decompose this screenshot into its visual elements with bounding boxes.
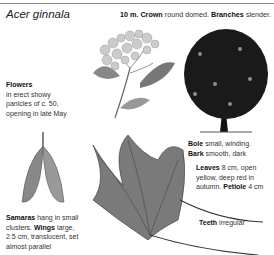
samaras-description: Samaras hang in small clusters. Wings la… [6, 213, 78, 251]
samaras-text: hang in small [37, 214, 78, 221]
petiole-text: 4 cm [248, 183, 263, 190]
samaras-text: clusters. [6, 224, 32, 231]
tree-summary: 10 m. Crown round domed. Branches slende… [120, 10, 271, 19]
flowers-line: opening in late May [6, 110, 67, 117]
flower-panicle-illustration [85, 28, 180, 123]
samara-illustration [18, 132, 68, 207]
petiole-label: Petiole [223, 183, 246, 190]
leaves-text: 8 cm, open [222, 164, 257, 171]
height-label: 10 m. [120, 10, 138, 19]
flowers-line: in erect showy [6, 91, 51, 98]
tree-silhouette-illustration [180, 24, 272, 134]
samaras-label: Samaras [6, 214, 35, 221]
leaves-text: autumn. [196, 183, 221, 190]
flowers-line: panicles of c. 50, [6, 100, 59, 107]
wings-text: large, [57, 224, 75, 231]
flowers-label: Flowers [6, 81, 32, 88]
crown-text: round domed. [165, 10, 209, 19]
flowers-description: Flowers in erect showy panicles of c. 50… [6, 80, 67, 118]
teeth-description: Teeth irregular [199, 218, 245, 228]
crown-label: Crown [140, 10, 162, 19]
leaves-label: Leaves [196, 164, 220, 171]
wings-label: Wings [34, 224, 55, 231]
bole-bark-description: Bole small, winding. Bark smooth, dark [188, 139, 251, 158]
species-title: Acer ginnala [6, 8, 70, 20]
leaves-description: Leaves 8 cm, open yellow, deep red in au… [196, 163, 263, 192]
bole-label: Bole [188, 140, 203, 147]
teeth-text: irregular [219, 219, 245, 226]
samaras-text: almost parallel [6, 243, 51, 250]
branches-label: Branches [211, 10, 244, 19]
bark-text: smooth, dark [206, 150, 246, 157]
bole-text: small, winding. [205, 140, 251, 147]
samaras-text: 2.5 cm, translucent, set [6, 233, 78, 240]
branches-text: slender. [246, 10, 271, 19]
teeth-label: Teeth [199, 219, 217, 226]
bark-label: Bark [188, 150, 204, 157]
leaves-text: yellow, deep red in [196, 174, 254, 181]
top-rule [0, 3, 274, 4]
